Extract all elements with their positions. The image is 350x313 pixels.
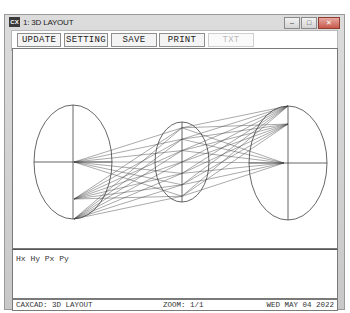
window-controls: – □ ✕	[284, 17, 340, 29]
window-title: 1: 3D LAYOUT	[23, 16, 73, 29]
close-button[interactable]: ✕	[318, 17, 340, 29]
output-text: Hx Hy Px Py	[16, 254, 69, 263]
output-panel[interactable]: Hx Hy Px Py	[12, 249, 338, 299]
print-button[interactable]: PRINT	[159, 33, 205, 47]
status-app: CAXCAD: 3D LAYOUT	[16, 300, 93, 310]
status-bar: CAXCAD: 3D LAYOUT ZOOM: 1/1 WED MAY 04 2…	[12, 299, 338, 311]
update-button[interactable]: UPDATE	[17, 33, 61, 47]
ray-trace-drawing	[13, 49, 337, 248]
status-date: WED MAY 04 2022	[266, 300, 334, 310]
app-icon[interactable]: CX	[9, 17, 20, 27]
save-button[interactable]: SAVE	[111, 33, 157, 47]
layout-canvas[interactable]	[12, 48, 338, 249]
minimize-button[interactable]: –	[284, 17, 300, 29]
txt-button: TXT	[208, 33, 254, 47]
status-zoom: ZOOM: 1/1	[163, 300, 204, 310]
setting-button[interactable]: SETTING	[64, 33, 108, 47]
app-window: CX 1: 3D LAYOUT – □ ✕ UPDATE SETTING SAV…	[4, 14, 345, 310]
title-bar[interactable]: CX 1: 3D LAYOUT – □ ✕	[5, 15, 344, 30]
maximize-button[interactable]: □	[301, 17, 317, 29]
